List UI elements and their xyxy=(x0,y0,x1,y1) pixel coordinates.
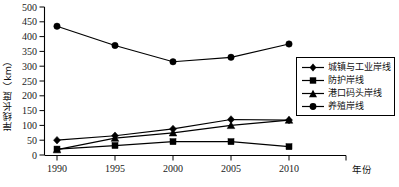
y-axis-title: 岸线长度（km） xyxy=(0,34,16,152)
x-tick-label-2010: 2010 xyxy=(279,163,299,174)
x-axis-title: 年份 xyxy=(352,162,372,176)
y-tick-label-350: 350 xyxy=(22,46,37,57)
series-layer xyxy=(53,23,293,153)
legend-marker-diamond-icon xyxy=(301,62,325,73)
legend-marker-circle-icon xyxy=(301,101,325,112)
data-point xyxy=(286,41,292,47)
y-tick-label-400: 400 xyxy=(22,31,37,42)
data-point xyxy=(54,23,60,29)
legend-item-urban-industrial[interactable]: 城镇与工业岸线 xyxy=(301,61,391,74)
data-point xyxy=(54,136,61,144)
y-tick-label-450: 450 xyxy=(22,16,37,27)
legend-item-port-wharf[interactable]: 港口码头岸线 xyxy=(301,87,391,100)
data-point xyxy=(170,139,176,145)
data-point xyxy=(170,59,176,65)
y-tick-label-300: 300 xyxy=(22,61,37,72)
y-axis-title-text: 岸线长度（km） xyxy=(1,56,15,131)
legend-label-aquaculture: 养殖岸线 xyxy=(328,101,364,112)
x-tick-label-2000: 2000 xyxy=(163,163,183,174)
chart-legend: 城镇与工业岸线 防护岸线 港口码头岸线 养殖岸线 xyxy=(296,57,395,116)
x-tick-label-1995: 1995 xyxy=(105,163,125,174)
series-line xyxy=(57,26,289,62)
y-tick-label-150: 150 xyxy=(22,105,37,116)
y-tick-label-50: 50 xyxy=(27,135,37,146)
y-tick-label-100: 100 xyxy=(22,120,37,131)
data-point xyxy=(112,42,118,48)
series-4 xyxy=(54,23,292,65)
data-point xyxy=(228,54,234,60)
y-tick-label-250: 250 xyxy=(22,76,37,87)
chart-container: 0 50 100 150 200 250 300 350 400 450 500… xyxy=(0,0,399,187)
legend-marker-square-icon xyxy=(301,75,325,86)
y-tick-label-0: 0 xyxy=(32,150,37,161)
data-point xyxy=(112,143,118,149)
series-2 xyxy=(54,139,292,152)
x-axis-ticks xyxy=(57,156,346,161)
legend-label-port-wharf: 港口码头岸线 xyxy=(328,88,382,99)
data-point xyxy=(286,144,292,150)
legend-item-aquaculture[interactable]: 养殖岸线 xyxy=(301,100,391,113)
y-tick-label-200: 200 xyxy=(22,90,37,101)
x-tick-label-2005: 2005 xyxy=(221,163,241,174)
y-axis-group: 0 50 100 150 200 250 300 350 400 450 500 xyxy=(22,2,45,161)
x-axis-group: 1990 1995 2000 2005 2010 xyxy=(45,156,347,175)
x-tick-label-1990: 1990 xyxy=(47,163,67,174)
legend-label-urban-industrial: 城镇与工业岸线 xyxy=(328,62,391,73)
legend-label-protective: 防护岸线 xyxy=(328,75,364,86)
y-tick-label-500: 500 xyxy=(22,2,37,13)
legend-marker-triangle-icon xyxy=(301,88,325,99)
data-point xyxy=(228,139,234,145)
legend-item-protective[interactable]: 防护岸线 xyxy=(301,74,391,87)
y-axis-ticks xyxy=(40,7,45,155)
